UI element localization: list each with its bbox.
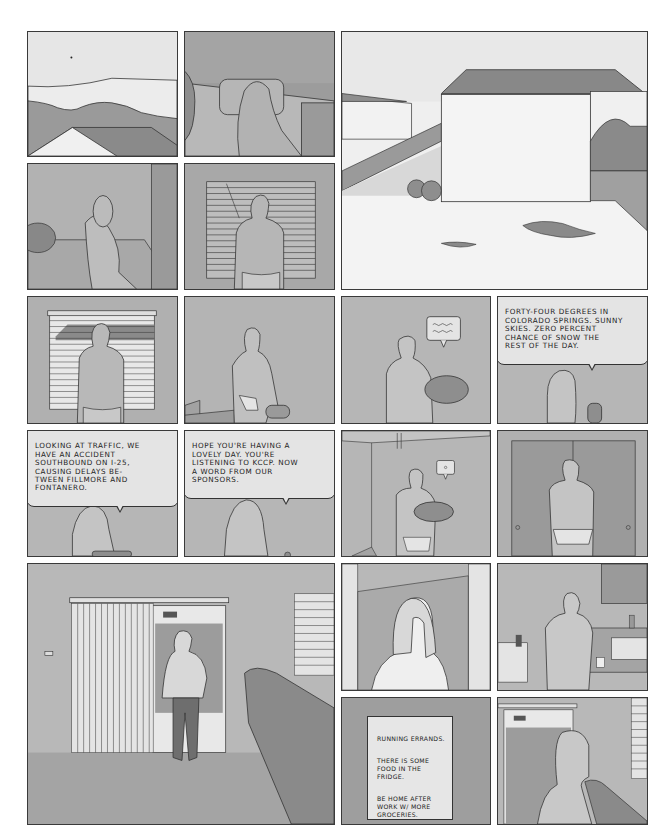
- note-line-1: RUNNING ERRANDS.: [377, 735, 446, 743]
- panel-11-sponsors: HOPE YOU'RE HAVING A LOVELY DAY. YOU'RE …: [184, 430, 335, 557]
- face-doorway-illustration: [342, 564, 490, 690]
- backyard-illustration: [342, 32, 647, 289]
- speech-bubble-squiggle: [427, 317, 461, 348]
- closed-blinds-illustration: [185, 164, 334, 289]
- bubble-text: FORTY-FOUR DEGREES IN COLORADO SPRINGS. …: [505, 307, 623, 350]
- handwritten-note: RUNNING ERRANDS. THERE IS SOME FOOD IN T…: [367, 716, 453, 820]
- panel-4-bed-edge: [27, 163, 178, 290]
- radio-speech-bubble-traffic: LOOKING AT TRAFFIC, WE HAVE AN ACCIDENT …: [27, 430, 178, 507]
- panel-13-closet: [497, 430, 648, 557]
- bubble-tail: [116, 506, 124, 513]
- panel-18-looking-out: [497, 697, 648, 825]
- panel-15-face-doorway: [341, 563, 491, 691]
- panel-6-blinds-open: [27, 296, 178, 424]
- kitchen-illustration: [498, 564, 647, 690]
- bed-edge-illustration: [28, 164, 177, 289]
- panel-10-traffic: LOOKING AT TRAFFIC, WE HAVE AN ACCIDENT …: [27, 430, 178, 557]
- panel-9-weather: FORTY-FOUR DEGREES IN COLORADO SPRINGS. …: [497, 296, 648, 424]
- panel-1-landscape: [27, 31, 178, 157]
- panel-3-backyard: [341, 31, 648, 290]
- panel-14-sliding-door: [27, 563, 335, 825]
- landscape-illustration: [28, 32, 177, 156]
- panel-16-kitchen: [497, 563, 648, 691]
- note-line-3: BE HOME AFTER WORK W/ MORE GROCERIES.: [377, 795, 446, 819]
- looking-out-illustration: [498, 698, 647, 824]
- bubble-tail: [282, 498, 290, 505]
- bubble-tail: [588, 364, 596, 371]
- radio-speech-bubble-sponsors: HOPE YOU'RE HAVING A LOVELY DAY. YOU'RE …: [184, 430, 335, 499]
- panel-17-note: RUNNING ERRANDS. THERE IS SOME FOOD IN T…: [341, 697, 491, 825]
- radio-speech-bubble-weather: FORTY-FOUR DEGREES IN COLORADO SPRINGS. …: [497, 296, 648, 365]
- note-line-2: THERE IS SOME FOOD IN THE FRIDGE.: [377, 757, 446, 781]
- speech-bubble-sparkle: [437, 461, 455, 480]
- panel-8-holding-radio: [341, 296, 491, 424]
- panel-12-carrying-radio: [341, 430, 491, 557]
- bed-scene-illustration: [185, 32, 334, 156]
- panel-5-blinds-closed: [184, 163, 335, 290]
- panel-7-pickup-radio: [184, 296, 335, 424]
- open-blinds-illustration: [28, 297, 177, 423]
- carrying-radio-illustration: [342, 431, 490, 556]
- panel-2-bed: [184, 31, 335, 157]
- closet-doors-illustration: [498, 431, 647, 556]
- bubble-text: LOOKING AT TRAFFIC, WE HAVE AN ACCIDENT …: [35, 441, 140, 492]
- sliding-door-illustration: [28, 564, 334, 824]
- bubble-text: HOPE YOU'RE HAVING A LOVELY DAY. YOU'RE …: [192, 441, 298, 484]
- holding-radio-illustration: [342, 297, 490, 423]
- pickup-radio-illustration: [185, 297, 334, 423]
